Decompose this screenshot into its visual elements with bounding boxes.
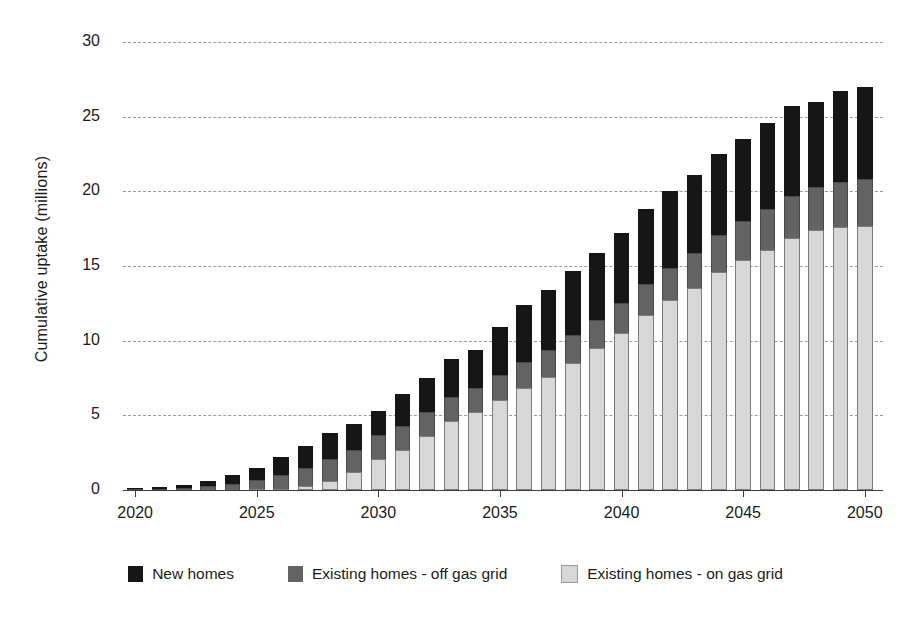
seg-off-gas-grid-2047 bbox=[784, 196, 800, 238]
seg-off-gas-grid-2037 bbox=[541, 350, 557, 377]
legend-label-1: Existing homes - off gas grid bbox=[312, 565, 507, 583]
seg-on-gas-grid-2047 bbox=[784, 238, 800, 490]
y-axis-tick-labels: 051015202530 bbox=[0, 42, 110, 490]
seg-off-gas-grid-2048 bbox=[808, 187, 824, 230]
seg-new-homes-2032 bbox=[419, 378, 435, 412]
dark-gray-square-swatch bbox=[288, 566, 303, 582]
legend-item-0[interactable]: New homes bbox=[128, 565, 234, 583]
seg-off-gas-grid-2035 bbox=[492, 375, 508, 400]
seg-new-homes-2039 bbox=[589, 253, 605, 320]
seg-new-homes-2028 bbox=[322, 433, 338, 458]
chart-figure: Cumulative uptake (millions) 05101520253… bbox=[0, 0, 911, 625]
bar-2046 bbox=[760, 42, 776, 490]
x-tick-label-2025: 2025 bbox=[222, 504, 292, 522]
seg-on-gas-grid-2029 bbox=[346, 472, 362, 490]
seg-on-gas-grid-2048 bbox=[808, 230, 824, 490]
bar-2022 bbox=[176, 42, 192, 490]
y-tick-label-10: 10 bbox=[10, 331, 100, 349]
x-tick-2030 bbox=[378, 490, 379, 497]
seg-new-homes-2047 bbox=[784, 106, 800, 196]
bar-2048 bbox=[808, 42, 824, 490]
x-tick-label-2030: 2030 bbox=[343, 504, 413, 522]
x-tick-2025 bbox=[257, 490, 258, 497]
seg-on-gas-grid-2038 bbox=[565, 363, 581, 490]
seg-off-gas-grid-2031 bbox=[395, 426, 411, 450]
bar-2050 bbox=[857, 42, 873, 490]
seg-new-homes-2022 bbox=[176, 485, 192, 488]
seg-off-gas-grid-2038 bbox=[565, 335, 581, 363]
seg-off-gas-grid-2033 bbox=[444, 397, 460, 421]
seg-off-gas-grid-2044 bbox=[711, 235, 727, 272]
x-tick-2045 bbox=[743, 490, 744, 497]
seg-off-gas-grid-2028 bbox=[322, 459, 338, 481]
seg-new-homes-2040 bbox=[614, 233, 630, 303]
x-tick-label-2020: 2020 bbox=[100, 504, 170, 522]
legend-item-2[interactable]: Existing homes - on gas grid bbox=[561, 565, 783, 583]
y-tick-label-30: 30 bbox=[10, 32, 100, 50]
seg-new-homes-2024 bbox=[225, 475, 241, 484]
seg-off-gas-grid-2041 bbox=[638, 284, 654, 315]
y-tick-label-5: 5 bbox=[10, 405, 100, 423]
legend-item-1[interactable]: Existing homes - off gas grid bbox=[288, 565, 507, 583]
bar-2028 bbox=[322, 42, 338, 490]
legend-label-2: Existing homes - on gas grid bbox=[587, 565, 783, 583]
seg-on-gas-grid-2039 bbox=[589, 348, 605, 490]
seg-on-gas-grid-2045 bbox=[735, 260, 751, 490]
bar-2041 bbox=[638, 42, 654, 490]
seg-on-gas-grid-2032 bbox=[419, 436, 435, 490]
x-tick-2020 bbox=[135, 490, 136, 497]
seg-new-homes-2027 bbox=[298, 446, 314, 468]
bar-2038 bbox=[565, 42, 581, 490]
seg-on-gas-grid-2049 bbox=[833, 227, 849, 490]
x-axis-line bbox=[123, 490, 883, 491]
seg-off-gas-grid-2045 bbox=[735, 221, 751, 260]
bar-2045 bbox=[735, 42, 751, 490]
seg-new-homes-2045 bbox=[735, 139, 751, 221]
bar-2026 bbox=[273, 42, 289, 490]
y-tick-label-0: 0 bbox=[10, 480, 100, 498]
seg-off-gas-grid-2025 bbox=[249, 480, 265, 489]
seg-off-gas-grid-2036 bbox=[516, 362, 532, 389]
seg-off-gas-grid-2029 bbox=[346, 450, 362, 472]
bar-2047 bbox=[784, 42, 800, 490]
bar-2032 bbox=[419, 42, 435, 490]
x-tick-label-2050: 2050 bbox=[830, 504, 900, 522]
seg-new-homes-2049 bbox=[833, 91, 849, 182]
seg-off-gas-grid-2030 bbox=[371, 435, 387, 459]
seg-new-homes-2034 bbox=[468, 350, 484, 389]
seg-on-gas-grid-2028 bbox=[322, 481, 338, 490]
seg-on-gas-grid-2030 bbox=[371, 459, 387, 490]
bar-2025 bbox=[249, 42, 265, 490]
seg-new-homes-2021 bbox=[152, 487, 168, 488]
seg-off-gas-grid-2026 bbox=[273, 475, 289, 488]
seg-on-gas-grid-2036 bbox=[516, 388, 532, 490]
seg-new-homes-2023 bbox=[200, 481, 216, 486]
y-tick-label-15: 15 bbox=[10, 256, 100, 274]
bar-2024 bbox=[225, 42, 241, 490]
seg-new-homes-2035 bbox=[492, 327, 508, 375]
bar-2037 bbox=[541, 42, 557, 490]
bar-2036 bbox=[516, 42, 532, 490]
seg-new-homes-2031 bbox=[395, 394, 411, 425]
seg-off-gas-grid-2042 bbox=[662, 268, 678, 301]
chart-legend: New homesExisting homes - off gas gridEx… bbox=[0, 565, 911, 583]
seg-on-gas-grid-2046 bbox=[760, 250, 776, 490]
bar-2043 bbox=[687, 42, 703, 490]
x-tick-label-2035: 2035 bbox=[465, 504, 535, 522]
bar-2049 bbox=[833, 42, 849, 490]
seg-new-homes-2048 bbox=[808, 102, 824, 187]
seg-off-gas-grid-2032 bbox=[419, 412, 435, 436]
x-tick-2050 bbox=[865, 490, 866, 497]
bar-2020 bbox=[127, 42, 143, 490]
seg-off-gas-grid-2046 bbox=[760, 209, 776, 249]
seg-on-gas-grid-2044 bbox=[711, 272, 727, 490]
seg-on-gas-grid-2033 bbox=[444, 421, 460, 490]
seg-on-gas-grid-2035 bbox=[492, 400, 508, 490]
bar-2031 bbox=[395, 42, 411, 490]
bar-2023 bbox=[200, 42, 216, 490]
seg-off-gas-grid-2040 bbox=[614, 303, 630, 333]
seg-new-homes-2038 bbox=[565, 271, 581, 335]
seg-off-gas-grid-2039 bbox=[589, 320, 605, 348]
bar-2029 bbox=[346, 42, 362, 490]
seg-on-gas-grid-2037 bbox=[541, 377, 557, 490]
